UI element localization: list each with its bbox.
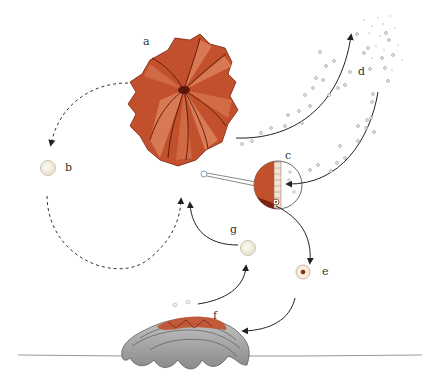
label-b: b — [65, 162, 72, 173]
label-f: f — [213, 310, 217, 321]
label-d: d — [358, 66, 365, 77]
life-cycle-diagram: a b c d e f g — [0, 0, 438, 382]
label-g: g — [230, 224, 237, 235]
polyp-a — [128, 34, 238, 166]
egg-b — [41, 161, 56, 176]
cross-section-c — [254, 160, 302, 212]
gamete-cloud-d — [241, 32, 395, 173]
label-e: e — [322, 266, 329, 277]
label-c: c — [285, 150, 291, 161]
reef-colony-f — [122, 316, 249, 369]
magnifier-connector — [201, 171, 256, 186]
larva-g — [241, 241, 256, 256]
gamete-specks — [363, 15, 402, 70]
zygote-e — [296, 265, 310, 279]
label-a: a — [143, 36, 150, 47]
